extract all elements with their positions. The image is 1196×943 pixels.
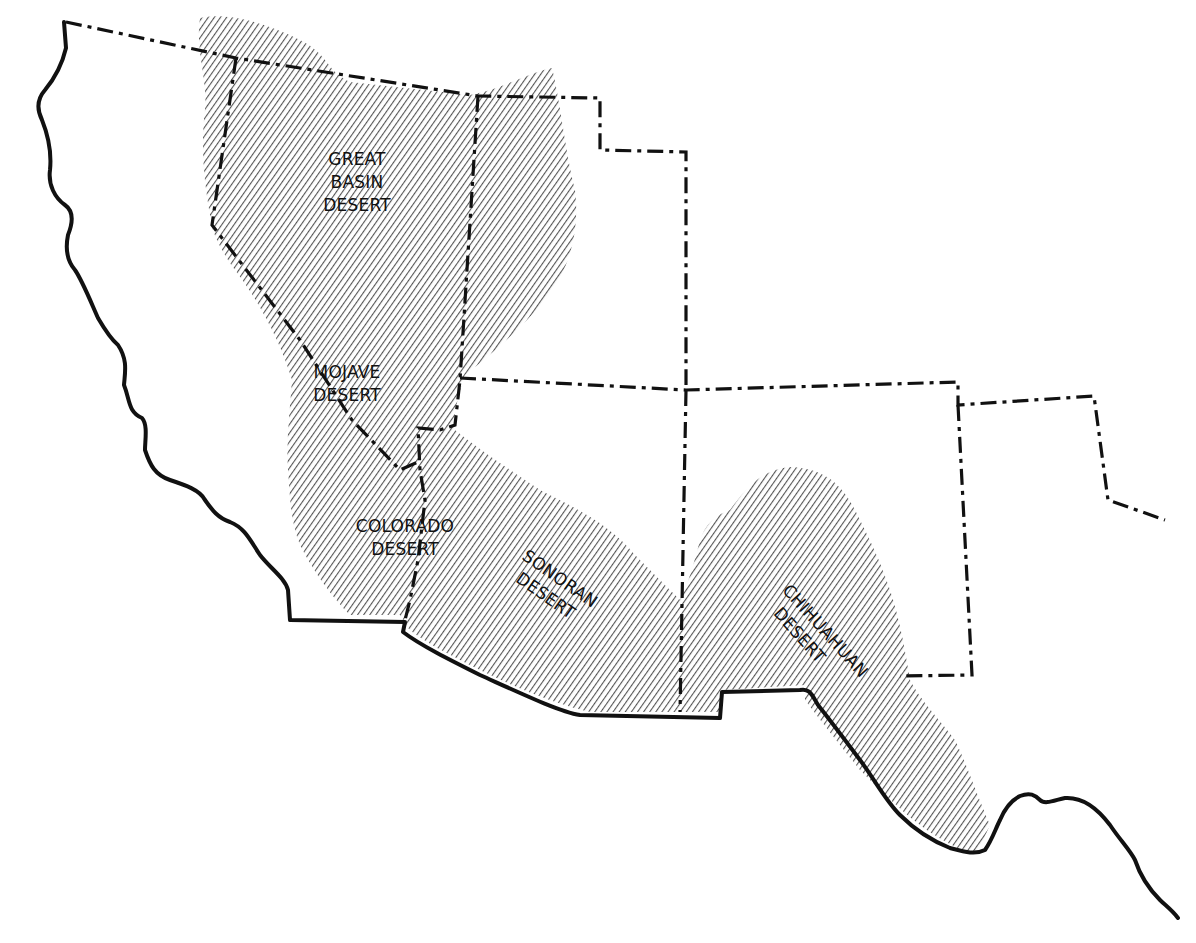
map-canvas: GREAT BASIN DESERT MOJAVE DESERT COLORAD… [0, 0, 1196, 943]
label-great-basin-1: GREAT [328, 149, 386, 169]
label-great-basin-3: DESERT [323, 195, 391, 215]
desert-area-chihuahuan [680, 467, 990, 855]
desert-map: GREAT BASIN DESERT MOJAVE DESERT COLORAD… [0, 0, 1196, 943]
state-border-nm-tx [900, 405, 972, 676]
label-great-basin-2: BASIN [331, 172, 384, 192]
desert-areas [199, 16, 990, 855]
label-colorado-2: DESERT [371, 539, 439, 559]
label-colorado-1: COLORADO [356, 516, 454, 536]
desert-area-west [199, 16, 680, 712]
label-mojave-1: MOJAVE [314, 362, 381, 382]
label-mojave-2: DESERT [313, 385, 381, 405]
